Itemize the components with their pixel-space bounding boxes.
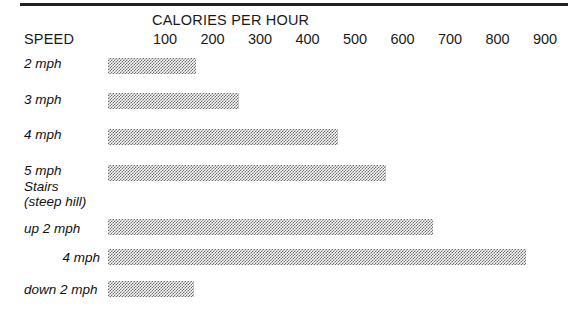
row-label-3: 5 mph	[0, 163, 104, 178]
speed-column-header: SPEED	[24, 31, 74, 47]
top-rule-divider	[20, 3, 568, 6]
bar-3	[108, 165, 386, 181]
bar-5	[108, 249, 526, 265]
row-label-5: 4 mph	[0, 250, 104, 265]
x-tick-label-600: 600	[390, 31, 414, 47]
x-tick-label-200: 200	[200, 31, 224, 47]
x-tick-label-800: 800	[485, 31, 509, 47]
group-label-line-2: (steep hill)	[24, 194, 86, 209]
x-tick-label-900: 900	[533, 31, 557, 47]
row-label-2: 4 mph	[0, 127, 104, 142]
x-tick-label-400: 400	[295, 31, 319, 47]
x-tick-label-500: 500	[343, 31, 367, 47]
x-tick-label-300: 300	[248, 31, 272, 47]
bar-1	[108, 93, 239, 109]
chart-axis-title: CALORIES PER HOUR	[152, 12, 309, 28]
bar-2	[108, 129, 338, 145]
group-label-line-1: Stairs	[24, 179, 86, 194]
group-label-stairs: Stairs (steep hill)	[24, 179, 86, 209]
row-label-6: down 2 mph	[0, 282, 104, 297]
x-tick-label-700: 700	[438, 31, 462, 47]
bar-6	[108, 281, 194, 297]
x-tick-label-100: 100	[153, 31, 177, 47]
calories-per-hour-bar-chart: CALORIES PER HOUR SPEED 1002003004005006…	[0, 0, 584, 315]
row-label-0: 2 mph	[0, 56, 104, 71]
bar-0	[108, 58, 196, 74]
bar-4	[108, 219, 433, 235]
row-label-4: up 2 mph	[0, 221, 104, 236]
row-label-1: 3 mph	[0, 92, 104, 107]
